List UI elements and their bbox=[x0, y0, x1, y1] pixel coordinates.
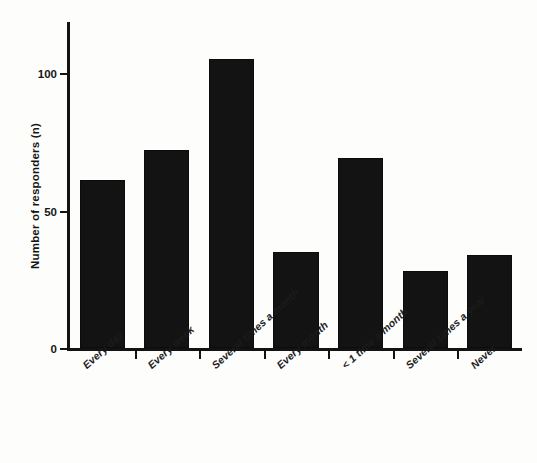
x-axis-tick bbox=[135, 351, 137, 359]
bar bbox=[338, 158, 383, 348]
x-axis-tick bbox=[393, 351, 395, 359]
bar-series bbox=[0, 0, 537, 463]
bar bbox=[80, 180, 125, 348]
x-axis-tick bbox=[457, 351, 459, 359]
x-axis-tick bbox=[264, 351, 266, 359]
x-axis-tick bbox=[328, 351, 330, 359]
bar bbox=[209, 59, 254, 348]
bar bbox=[144, 150, 189, 348]
bar-chart-figure: Number of responders (n) 050100 Every da… bbox=[0, 0, 537, 463]
x-axis-tick bbox=[199, 351, 201, 359]
